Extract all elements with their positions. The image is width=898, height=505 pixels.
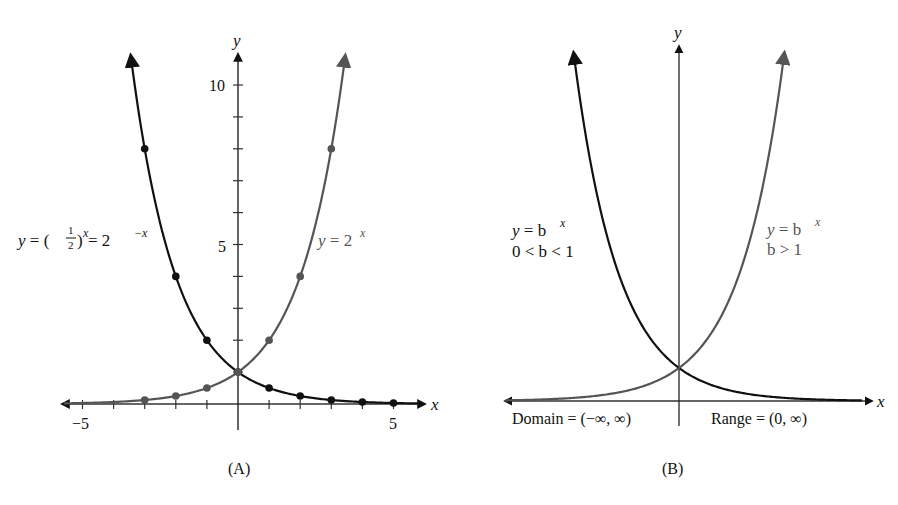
svg-text:y = 2: y = 2 <box>316 231 352 250</box>
tick-label-x5: 5 <box>389 415 397 432</box>
label-growth-b: y = b x b > 1 <box>765 215 821 259</box>
data-point <box>328 396 336 404</box>
growth-label-exp: x <box>359 226 366 240</box>
right-label-base: = b <box>775 220 802 239</box>
data-point <box>141 145 149 153</box>
tick-label-y5: 5 <box>218 238 226 255</box>
y-axis-label-a: y <box>231 31 241 50</box>
svg-text:y = b: y = b <box>510 221 546 240</box>
curve-growth-a <box>64 55 345 403</box>
left-label-base: = b <box>520 221 547 240</box>
domain-annotation: Domain = (−∞, ∞) <box>512 410 631 428</box>
caption-b: (B) <box>662 460 683 478</box>
curve-decay-a <box>131 55 422 403</box>
label-decay-function: y = ( 1 2 ) x = 2 −x <box>16 224 148 251</box>
left-label-exp: x <box>559 216 566 230</box>
data-point <box>359 398 367 406</box>
x-axis-label-a: x <box>430 395 439 414</box>
data-point <box>172 392 180 400</box>
label-decay-b: y = b x 0 < b < 1 <box>510 216 574 261</box>
data-point <box>203 384 211 392</box>
curve-growth-b <box>505 53 784 401</box>
svg-text:y = b: y = b <box>765 220 801 239</box>
svg-text:y = (: y = ( <box>16 231 50 250</box>
label-growth-function: y = 2 x <box>316 226 366 250</box>
data-point <box>296 273 304 281</box>
data-point <box>203 336 211 344</box>
y-axis-label-b: y <box>672 23 682 42</box>
data-point <box>265 336 273 344</box>
caption-a: (A) <box>228 460 250 478</box>
decay-label-mid: ) <box>77 231 83 250</box>
data-point <box>390 399 398 407</box>
growth-label-base: = 2 <box>326 231 353 250</box>
data-points-a <box>141 145 397 407</box>
decay-label-exp2: −x <box>134 226 148 240</box>
panel-b: x y y = b x 0 < b < 1 y = b x b > 1 Doma… <box>505 23 885 478</box>
data-point <box>296 392 304 400</box>
left-label-condition: 0 < b < 1 <box>512 242 574 261</box>
panel-a: x y −5 5 5 10 y = ( 1 2 ) x = 2 −x y = 2… <box>16 31 439 478</box>
data-point <box>141 396 149 404</box>
data-point <box>328 145 336 153</box>
data-point <box>265 384 273 392</box>
decay-label-den: 2 <box>68 239 74 251</box>
data-point <box>172 273 180 281</box>
right-label-condition: b > 1 <box>767 240 802 259</box>
range-annotation: Range = (0, ∞) <box>711 410 807 428</box>
right-label-exp: x <box>814 215 821 229</box>
decay-label-num: 1 <box>68 224 74 236</box>
x-axis-label-b: x <box>876 392 885 411</box>
data-point <box>234 368 242 376</box>
tick-label-y10: 10 <box>209 77 225 94</box>
decay-label-eq: = 2 <box>88 231 110 250</box>
figure-canvas: x y −5 5 5 10 y = ( 1 2 ) x = 2 −x y = 2… <box>0 0 898 505</box>
tick-label-neg5: −5 <box>72 415 89 432</box>
decay-label-prefix: = ( <box>26 231 50 250</box>
